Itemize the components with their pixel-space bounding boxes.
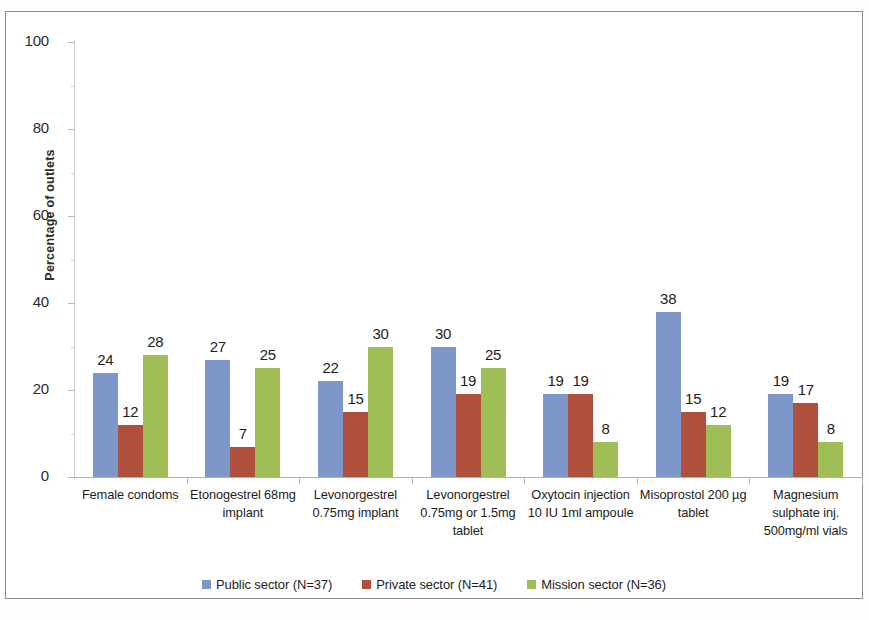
category-separator-tick — [637, 477, 638, 484]
category-separator-tick — [412, 477, 413, 484]
figure-frame: Percentage of outlets 020406080100 24122… — [5, 11, 863, 599]
bar-mission — [143, 355, 168, 477]
bar-value-label: 25 — [473, 346, 513, 363]
category-label-line: Magnesium — [745, 486, 866, 504]
category-separator-tick — [862, 477, 863, 484]
plot-area: 241228277252215303019251919838151219178 — [74, 42, 862, 477]
category-label: Magnesiumsulphate inj.500mg/ml vials — [745, 486, 866, 540]
bar-mission — [706, 425, 731, 477]
category-label: Oxytocin injection10 IU 1ml ampoule — [520, 486, 641, 522]
bar-private — [118, 425, 143, 477]
bar-private — [681, 412, 706, 477]
chart-legend: Public sector (N=37)Private sector (N=41… — [6, 577, 862, 592]
bar-public — [93, 373, 118, 477]
bar-public — [768, 394, 793, 477]
category-label-line: Etonogestrel 68mg — [183, 486, 304, 504]
bar-public — [543, 394, 568, 477]
category-separator-tick — [299, 477, 300, 484]
category-label: Levonorgestrel0.75mg implant — [295, 486, 416, 522]
y-axis-tick-label: 40 — [3, 293, 49, 310]
category-label-line: sulphate inj. — [745, 504, 866, 522]
bar-value-label: 17 — [786, 381, 826, 398]
bar-value-label: 25 — [248, 346, 288, 363]
y-axis-tick-label: 0 — [3, 467, 49, 484]
bar-value-label: 28 — [135, 333, 175, 350]
category-label-line: Female condoms — [70, 486, 191, 504]
bar-private — [793, 403, 818, 477]
y-axis-tick-label: 20 — [3, 380, 49, 397]
bar-value-label: 8 — [811, 420, 851, 437]
category-separator-tick — [749, 477, 750, 484]
bar-value-label: 24 — [85, 351, 125, 368]
category-label: Etonogestrel 68mgimplant — [183, 486, 304, 522]
category-label-line: implant — [183, 504, 304, 522]
legend-swatch-icon — [527, 580, 536, 589]
category-label: Levonorgestrel0.75mg or 1.5mgtablet — [408, 486, 529, 540]
bar-value-label: 12 — [698, 403, 738, 420]
bar-mission — [593, 442, 618, 477]
category-label-line: Levonorgestrel — [295, 486, 416, 504]
bar-private — [343, 412, 368, 477]
legend-label: Public sector (N=37) — [216, 577, 332, 592]
category-label: Misoprostol 200 µgtablet — [633, 486, 754, 522]
category-label-line: Oxytocin injection — [520, 486, 641, 504]
legend-item[interactable]: Public sector (N=37) — [202, 577, 332, 592]
bar-value-label: 19 — [561, 372, 601, 389]
category-separator-tick — [187, 477, 188, 484]
category-label-line: tablet — [408, 522, 529, 540]
bar-mission — [368, 347, 393, 478]
category-label-line: Misoprostol 200 µg — [633, 486, 754, 504]
bar-value-label: 27 — [198, 338, 238, 355]
category-label: Female condoms — [70, 486, 191, 504]
legend-swatch-icon — [362, 580, 371, 589]
bar-mission — [255, 368, 280, 477]
category-label-line: tablet — [633, 504, 754, 522]
bar-public — [431, 347, 456, 478]
bar-value-label: 38 — [648, 290, 688, 307]
legend-swatch-icon — [202, 580, 211, 589]
bar-value-label: 8 — [586, 420, 626, 437]
y-axis-tick-label: 80 — [3, 119, 49, 136]
bar-mission — [818, 442, 843, 477]
figure-container: Percentage of outlets 020406080100 24122… — [0, 0, 869, 620]
legend-item[interactable]: Private sector (N=41) — [362, 577, 497, 592]
y-axis-tick-label: 100 — [3, 32, 49, 49]
bar-private — [456, 394, 481, 477]
category-label-line: Levonorgestrel — [408, 486, 529, 504]
category-separator-tick — [524, 477, 525, 484]
bar-value-label: 30 — [423, 325, 463, 342]
bar-value-label: 22 — [310, 359, 350, 376]
legend-item[interactable]: Mission sector (N=36) — [527, 577, 666, 592]
y-axis-tick — [68, 477, 75, 478]
category-label-line: 0.75mg implant — [295, 504, 416, 522]
bar-public — [205, 360, 230, 477]
category-label-line: 0.75mg or 1.5mg — [408, 504, 529, 522]
legend-label: Mission sector (N=36) — [541, 577, 666, 592]
category-label-line: 10 IU 1ml ampoule — [520, 504, 641, 522]
bar-value-label: 30 — [360, 325, 400, 342]
legend-label: Private sector (N=41) — [376, 577, 497, 592]
bar-private — [230, 447, 255, 477]
bar-mission — [481, 368, 506, 477]
y-axis-tick-label: 60 — [3, 206, 49, 223]
x-axis-line — [74, 477, 862, 478]
category-label-line: 500mg/ml vials — [745, 522, 866, 540]
